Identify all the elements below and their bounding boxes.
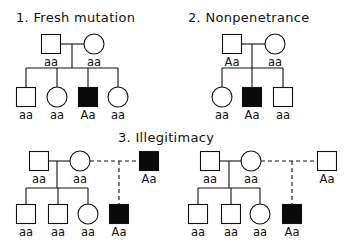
individual-p3a-child1: aa [17, 205, 36, 240]
genotype-label: Aa [285, 225, 300, 239]
genotype-label: aa [81, 225, 95, 239]
individual-p3a-father: aa [30, 152, 49, 187]
genotype-label: Aa [245, 108, 260, 122]
genotype-label: aa [215, 108, 229, 122]
individual-p1-child1: aa [17, 88, 36, 123]
individual-p3b-mother: aa [241, 151, 261, 186]
individual-p3b-father: aa [201, 152, 220, 187]
individual-p2-child2: Aa [243, 88, 262, 123]
male-square [318, 152, 337, 171]
male-square [223, 35, 242, 54]
genotype-label: aa [50, 108, 64, 122]
panel-title: 1. Fresh mutation [16, 10, 135, 25]
genotype-label: Aa [225, 55, 240, 69]
individual-p3a-true-father: Aa [140, 152, 159, 187]
genotype-label: aa [44, 55, 58, 69]
female-circle [250, 204, 270, 224]
individual-p3a-child4: Aa [110, 205, 129, 240]
female-circle [78, 204, 98, 224]
male-square [17, 88, 36, 107]
female-circle [241, 151, 261, 171]
affected-male-square [283, 205, 302, 224]
individual-p1-father: aa [42, 35, 61, 70]
individual-p3a-child2: aa [49, 205, 68, 240]
individual-p1-child2: aa [47, 87, 67, 122]
female-circle [265, 34, 285, 54]
pedigree-figure: 1. Fresh mutation aaaaaaaaAaaa 2. Nonpen… [0, 0, 347, 250]
genotype-label: aa [203, 172, 217, 186]
genotype-label: Aa [112, 225, 127, 239]
individual-p3b-child4: Aa [283, 205, 302, 240]
affected-male-square [243, 88, 262, 107]
genotype-label: aa [32, 172, 46, 186]
panel-title: 2. Nonpenetrance [188, 10, 310, 25]
affected-male-square [79, 88, 98, 107]
female-circle [212, 87, 232, 107]
male-square [222, 205, 241, 224]
female-circle [70, 151, 90, 171]
panel-fresh-mutation: 1. Fresh mutation aaaaaaaaAaaa [16, 10, 135, 122]
genotype-label: aa [253, 225, 267, 239]
individual-p2-father: Aa [223, 35, 242, 70]
genotype-label: aa [224, 225, 238, 239]
male-square [274, 88, 293, 107]
genotype-label: aa [244, 172, 258, 186]
genotype-label: Aa [320, 172, 335, 186]
individual-p2-mother: aa [265, 34, 285, 69]
male-square [42, 35, 61, 54]
genotype-label: aa [87, 55, 101, 69]
panel-illegitimacy: 3. Illegitimacy aaaaAaaaaaaaAaaaaaAaaaaa… [17, 130, 337, 239]
genotype-label: aa [51, 225, 65, 239]
individual-p1-child3: Aa [79, 88, 98, 123]
genotype-label: aa [268, 55, 282, 69]
genotype-label: Aa [142, 172, 157, 186]
male-square [49, 205, 68, 224]
female-circle [47, 87, 67, 107]
male-square [201, 152, 220, 171]
female-circle [84, 34, 104, 54]
affected-male-square [140, 152, 159, 171]
individual-p3b-child3: aa [250, 204, 270, 239]
individual-p1-mother: aa [84, 34, 104, 69]
genotype-label: aa [19, 225, 33, 239]
affected-male-square [110, 205, 129, 224]
individual-p2-child1: aa [212, 87, 232, 122]
female-circle [108, 87, 128, 107]
panel-title: 3. Illegitimacy [118, 130, 214, 145]
male-square [17, 205, 36, 224]
genotype-label: aa [276, 108, 290, 122]
panel-nonpenetrance: 2. Nonpenetrance AaaaaaAaaa [188, 10, 310, 122]
individual-p1-child4: aa [108, 87, 128, 122]
individual-p3b-child1: aa [189, 205, 208, 240]
genotype-label: aa [191, 225, 205, 239]
genotype-label: aa [19, 108, 33, 122]
genotype-label: Aa [81, 108, 96, 122]
individual-p3a-mother: aa [70, 151, 90, 186]
male-square [30, 152, 49, 171]
genotype-label: aa [73, 172, 87, 186]
individual-p2-child3: aa [274, 88, 293, 123]
male-square [189, 205, 208, 224]
genotype-label: aa [111, 108, 125, 122]
individual-p3a-child3: aa [78, 204, 98, 239]
individual-p3b-child2: aa [222, 205, 241, 240]
individual-p3b-true-father: Aa [318, 152, 337, 187]
